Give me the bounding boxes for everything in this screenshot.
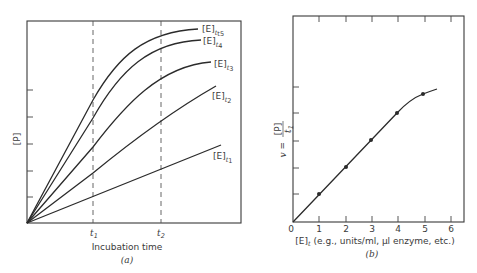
- curve-e-t3: [27, 62, 211, 223]
- label-e-t3: [E]t3: [214, 59, 233, 73]
- rate-curve: [293, 89, 437, 222]
- svg-text:v =: v =: [278, 142, 288, 158]
- curve-e-t4: [27, 40, 201, 223]
- data-point: [395, 111, 399, 115]
- svg-text:0: 0: [288, 224, 294, 234]
- panel-a-curves: [27, 29, 221, 223]
- panel-a-y-ticks: [27, 90, 33, 197]
- data-point: [369, 138, 373, 142]
- svg-text:5: 5: [422, 224, 428, 234]
- panel-b-caption: (b): [366, 249, 379, 259]
- panel-a-y-label: [P]: [12, 133, 22, 145]
- panel-b-x-tick-labels: 0 1 2 3 4 5 6: [288, 224, 454, 234]
- panel-a: [E]tt5 [E]t4 [E]t3 [E]t2 [E]t1 [P] t1 t2…: [12, 21, 241, 265]
- panel-a-x-label: Incubation time: [92, 242, 163, 252]
- curve-e-t2: [27, 86, 216, 223]
- svg-text:3: 3: [369, 224, 375, 234]
- panel-b-x-ticks: [319, 216, 451, 222]
- svg-text:[P]: [P]: [273, 123, 283, 135]
- figure: [E]tt5 [E]t4 [E]t3 [E]t2 [E]t1 [P] t1 t2…: [0, 0, 477, 273]
- svg-text:1: 1: [316, 224, 322, 234]
- svg-text:6: 6: [448, 224, 454, 234]
- panel-a-frame: [27, 21, 241, 223]
- tick-t1: t1: [90, 228, 98, 240]
- data-point: [421, 92, 425, 96]
- label-e-t1: [E]t1: [213, 151, 232, 165]
- panel-a-caption: (a): [121, 255, 134, 265]
- label-e-t4: [E]t4: [203, 36, 222, 50]
- panel-b: 0 1 2 3 4 5 6 v = [P] t1 [E]t (e.g., uni…: [273, 16, 464, 259]
- curve-e-t1: [27, 145, 221, 223]
- tick-t2: t2: [157, 228, 165, 240]
- label-e-t2: [E]t2: [212, 91, 231, 105]
- svg-text:t1: t1: [283, 125, 295, 133]
- svg-text:4: 4: [395, 224, 401, 234]
- data-point: [344, 165, 348, 169]
- panel-b-y-ticks: [293, 87, 299, 194]
- panel-b-x-label: [E]t (e.g., units/ml, µl enzyme, etc.): [295, 236, 454, 248]
- panel-b-frame: [293, 16, 464, 222]
- panel-b-top-ticks: [319, 16, 451, 22]
- data-point: [317, 192, 321, 196]
- panel-b-y-label: v = [P] t1: [273, 121, 295, 158]
- svg-text:2: 2: [343, 224, 349, 234]
